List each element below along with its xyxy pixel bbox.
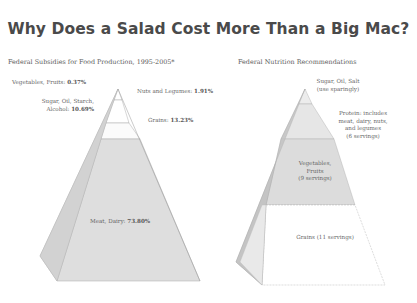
label-sugar-oil-starch: Sugar, Oil, Starch, Alcohol: 10.69%: [28, 98, 94, 113]
label-sugar-oil-salt: Sugar, Oil, Salt (use sparingly): [308, 78, 368, 93]
label-vegetables-fruits-rec: Vegetables, Fruits (9 servings): [285, 160, 345, 183]
label-meat-dairy: Meat, Dairy: 73.80%: [90, 218, 150, 226]
tier-grains-rec: [262, 205, 385, 285]
tier-protein: [281, 104, 334, 139]
label-vegetables-fruits: Vegetables, Fruits: 0.37%: [12, 79, 86, 87]
tier-grains: [101, 123, 140, 139]
label-grains: Grains: 13.23%: [148, 117, 193, 125]
label-grains-rec: Grains (11 servings): [270, 234, 380, 242]
label-nuts-legumes: Nuts and Legumes: 1.91%: [137, 88, 213, 96]
subsidies-pyramid: [0, 0, 417, 303]
label-protein: Protein: includes meat, dairy, nuts, and…: [329, 110, 397, 140]
